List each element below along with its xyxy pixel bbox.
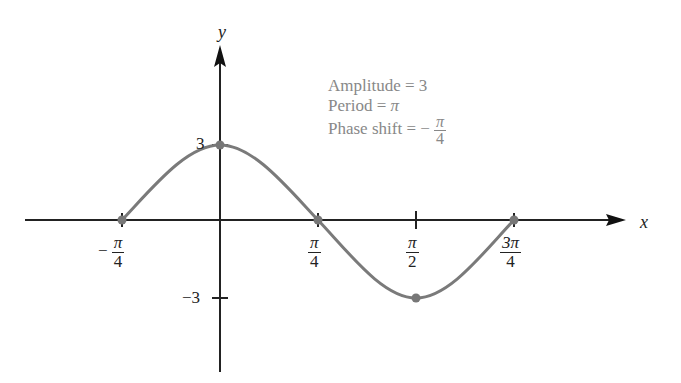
denominator: 4	[434, 131, 446, 147]
denominator: 4	[500, 253, 521, 271]
x-tick-label-neg-pi-4: − π4	[98, 234, 124, 271]
numerator: π	[406, 234, 419, 253]
denominator: 4	[112, 253, 125, 271]
x-axis-label: x	[640, 212, 648, 233]
y-tick-label-neg-3: −3	[182, 289, 200, 307]
numerator: π	[308, 234, 321, 253]
x-tick-label-3pi-4: 3π4	[500, 234, 521, 271]
phase-shift-label: Phase shift = −	[328, 119, 430, 138]
x-tick-label-pi-2: π2	[406, 234, 419, 271]
x-axis-arrow-icon	[606, 214, 626, 226]
y-tick-label-3: 3	[196, 135, 205, 153]
amplitude-text: Amplitude = 3	[328, 76, 446, 96]
numerator: 3π	[500, 234, 521, 253]
phase-shift-fraction: π4	[434, 114, 446, 147]
x-tick-label-pi-4: π4	[308, 234, 321, 271]
plot-area	[0, 0, 681, 383]
point-neg-pi-4	[118, 216, 127, 225]
numerator: π	[112, 234, 125, 253]
point-3pi-4	[510, 216, 519, 225]
y-axis-label: y	[218, 22, 226, 43]
minus-sign: −	[98, 241, 108, 260]
period-label: Period =	[328, 96, 390, 115]
properties-annotation: Amplitude = 3 Period = π Phase shift = −…	[328, 76, 446, 147]
denominator: 2	[406, 253, 419, 271]
period-value: π	[390, 96, 399, 115]
point-min	[412, 294, 421, 303]
period-text: Period = π	[328, 96, 446, 116]
numerator: π	[434, 114, 446, 131]
point-pi-4	[314, 216, 323, 225]
phase-shift-text: Phase shift = − π4	[328, 114, 446, 147]
point-max	[216, 141, 225, 150]
denominator: 4	[308, 253, 321, 271]
